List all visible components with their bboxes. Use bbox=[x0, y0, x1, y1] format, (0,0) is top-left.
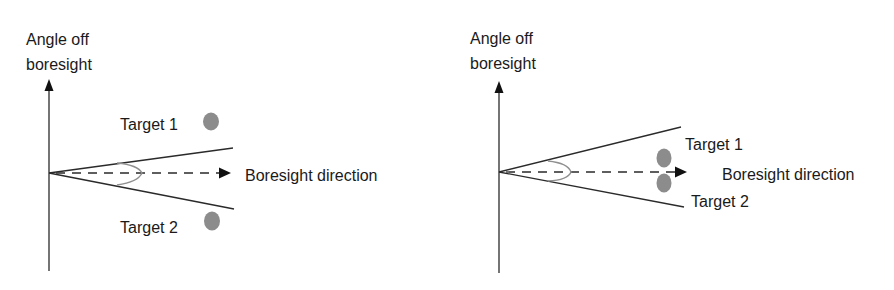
panel-left: Angle off boresight Target 1 Target 2 Bo… bbox=[26, 31, 378, 271]
axis-label-line1: Angle off bbox=[26, 31, 89, 48]
diagram-canvas: Angle off boresight Target 1 Target 2 Bo… bbox=[0, 0, 894, 290]
target-1-marker bbox=[203, 113, 219, 131]
beam-lower-edge bbox=[49, 173, 234, 209]
boresight-arrowhead-icon bbox=[219, 168, 231, 179]
target-1-label: Target 1 bbox=[685, 136, 743, 153]
beam-lower-edge bbox=[499, 172, 684, 207]
axis-arrowhead-icon bbox=[45, 79, 54, 91]
target-1-label: Target 1 bbox=[120, 116, 178, 133]
beam-upper-edge bbox=[499, 127, 681, 172]
panel-right: Angle off boresight Target 1 Target 2 Bo… bbox=[470, 30, 855, 273]
target-1-marker bbox=[657, 149, 672, 168]
axis-arrowhead-icon bbox=[495, 81, 504, 93]
axis-label-line2: boresight bbox=[470, 55, 536, 72]
boresight-arrowhead-icon bbox=[675, 167, 687, 178]
beamwidth-arc bbox=[548, 161, 571, 181]
beam-upper-edge bbox=[49, 148, 233, 173]
target-2-label: Target 2 bbox=[691, 193, 749, 210]
axis-label-line1: Angle off bbox=[470, 30, 533, 47]
axis-label-line2: boresight bbox=[26, 56, 92, 73]
boresight-label: Boresight direction bbox=[722, 166, 855, 183]
radar-angular-resolution-figure: Angle off boresight Target 1 Target 2 Bo… bbox=[0, 0, 894, 290]
target-2-marker bbox=[657, 174, 672, 193]
boresight-label: Boresight direction bbox=[245, 167, 378, 184]
target-2-label: Target 2 bbox=[120, 219, 178, 236]
beamwidth-arc bbox=[117, 163, 142, 185]
target-2-marker bbox=[204, 212, 220, 231]
